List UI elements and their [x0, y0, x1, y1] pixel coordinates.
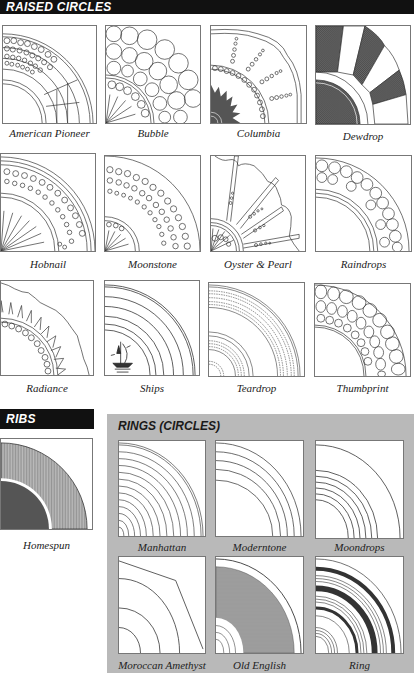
- pattern-tile-raindrops: [315, 155, 412, 252]
- pattern-tile-columbia: [210, 25, 307, 124]
- manhattan-pattern-icon: [119, 441, 205, 536]
- old-english-pattern-icon: [216, 557, 303, 653]
- pattern-tile-american-pioneer: [2, 25, 97, 124]
- pattern-tile-bubble: [105, 25, 201, 124]
- pattern-label: Teardrop: [208, 382, 305, 394]
- pattern-tile-oyster-pearl: [210, 155, 306, 252]
- pattern-label: Raindrops: [315, 258, 412, 270]
- pattern-label: Ring: [315, 659, 404, 671]
- raindrops-pattern-icon: [316, 156, 411, 251]
- pattern-label: Moondrops: [315, 541, 404, 553]
- pattern-label: Old English: [215, 659, 304, 671]
- moderntone-pattern-icon: [216, 441, 303, 536]
- pattern-tile-hobnail: [0, 153, 96, 252]
- pattern-label: Moonstone: [104, 258, 201, 270]
- homespun-pattern-icon: [1, 439, 92, 529]
- pattern-tile-radiance: [0, 280, 94, 376]
- section-title: RAISED CIRCLES: [6, 1, 112, 13]
- american-pioneer-pattern-icon: [3, 26, 96, 123]
- pattern-tile-manhattan: [118, 440, 206, 537]
- bubble-pattern-icon: [106, 26, 200, 123]
- section-header-ribs: RIBS: [0, 409, 94, 429]
- section-title-rings: RINGS (CIRCLES): [118, 419, 220, 433]
- section-title: RIBS: [6, 413, 36, 425]
- pattern-label: American Pioneer: [2, 127, 97, 139]
- pattern-label: Homespun: [0, 539, 93, 551]
- pattern-tile-homespun: [0, 438, 93, 530]
- thumbprint-pattern-icon: [315, 284, 410, 376]
- pattern-label: Hobnail: [0, 258, 96, 270]
- pattern-tile-ships: [104, 280, 200, 376]
- pattern-tile-teardrop: [208, 282, 305, 377]
- pattern-label: Manhattan: [118, 541, 206, 553]
- pattern-tile-dewdrop: [315, 25, 411, 125]
- radiance-pattern-icon: [1, 281, 93, 375]
- pattern-label: Ships: [104, 382, 200, 394]
- pattern-tile-moonstone: [104, 155, 201, 252]
- pattern-tile-old-english: [215, 556, 304, 654]
- moondrops-pattern-icon: [316, 441, 403, 538]
- ships-pattern-icon: [105, 281, 199, 375]
- section-header-raised-circles: RAISED CIRCLES: [0, 0, 414, 14]
- pattern-label: Dewdrop: [315, 130, 411, 142]
- pattern-label: Moroccan Amethyst: [113, 659, 211, 671]
- pattern-label: Bubble: [105, 127, 201, 139]
- pattern-tile-moroccan-amethyst: [118, 556, 206, 654]
- oyster-pearl-pattern-icon: [211, 156, 305, 251]
- pattern-tile-moondrops: [315, 440, 404, 539]
- teardrop-pattern-icon: [209, 283, 304, 376]
- pattern-label: Radiance: [0, 382, 94, 394]
- columbia-pattern-icon: [211, 26, 306, 123]
- pattern-tile-ring: [315, 556, 404, 654]
- ring-pattern-icon: [316, 557, 403, 653]
- pattern-tile-moderntone: [215, 440, 304, 537]
- pattern-label: Thumbprint: [314, 382, 411, 394]
- moonstone-pattern-icon: [105, 156, 200, 251]
- pattern-tile-thumbprint: [314, 283, 411, 377]
- moroccan-amethyst-pattern-icon: [119, 557, 205, 653]
- dewdrop-pattern-icon: [316, 26, 410, 124]
- pattern-label: Columbia: [210, 127, 307, 139]
- hobnail-pattern-icon: [1, 154, 95, 251]
- pattern-label: Moderntone: [215, 541, 304, 553]
- pattern-label: Oyster & Pearl: [210, 258, 306, 270]
